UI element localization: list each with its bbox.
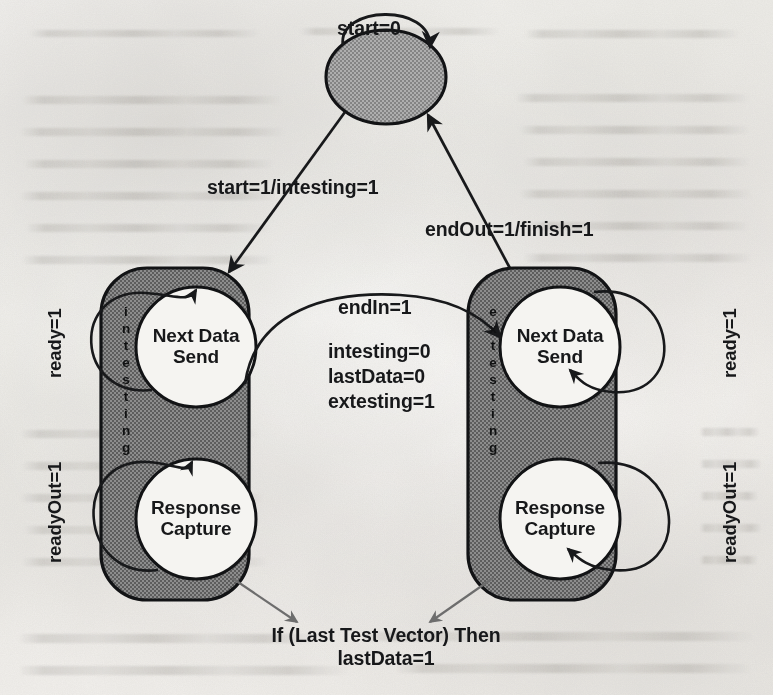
annotation-arrow-from-extesting [430, 578, 493, 622]
self-loop-label-extesting-ready: ready=1 [719, 308, 741, 378]
vletter: t [491, 388, 496, 405]
state-label-extesting-next-data-send: Next Data Send [505, 325, 615, 368]
transition-label-idle-self: start=0 [337, 17, 401, 40]
superstate-label-extesting: e x t e s t i n g [484, 303, 502, 456]
vletter: s [122, 371, 130, 388]
vletter: t [491, 337, 496, 354]
self-loop-label-intesting-ready: ready=1 [44, 308, 66, 378]
annotation-arrow-from-intesting [232, 578, 297, 622]
vletter: t [124, 388, 129, 405]
annotation-last-test-vector: If (Last Test Vector) Then lastData=1 [186, 624, 586, 670]
self-loop-label-intesting-readyout: readyOut=1 [44, 462, 66, 563]
state-label-line1: Response [515, 497, 605, 518]
vletter: x [489, 320, 497, 337]
transition-label-intesting-0: intesting=0 [328, 340, 430, 363]
annotation-line2: lastData=1 [337, 647, 434, 669]
vletter: t [124, 337, 129, 354]
state-label-line2: Send [537, 346, 583, 367]
superstate-label-intesting: i n t e s t i n g [117, 303, 135, 456]
vletter: g [122, 439, 130, 456]
vletter: i [124, 303, 128, 320]
vletter: g [489, 439, 497, 456]
scanned-page: start=0 start=1/intesting=1 endOut=1/fin… [0, 0, 773, 695]
self-loop-label-extesting-readyout: readyOut=1 [719, 462, 741, 563]
transition-label-endin: endIn=1 [338, 296, 412, 319]
transition-label-idle-to-intesting: start=1/intesting=1 [207, 176, 379, 199]
state-label-line1: Next Data [153, 325, 240, 346]
vletter: i [124, 405, 128, 422]
state-label-line1: Next Data [517, 325, 604, 346]
state-label-intesting-next-data-send: Next Data Send [141, 325, 251, 368]
vletter: e [122, 354, 130, 371]
vletter: s [489, 371, 497, 388]
transition-label-extesting-to-idle: endOut=1/finish=1 [425, 218, 593, 241]
vletter: n [122, 320, 130, 337]
state-label-line2: Capture [160, 518, 231, 539]
state-label-intesting-response-capture: Response Capture [141, 497, 251, 540]
state-label-line2: Send [173, 346, 219, 367]
vletter: n [122, 422, 130, 439]
state-label-line1: Response [151, 497, 241, 518]
vletter: i [491, 405, 495, 422]
annotation-line1: If (Last Test Vector) Then [272, 624, 501, 646]
state-label-line2: Capture [524, 518, 595, 539]
transition-label-lastdata-0: lastData=0 [328, 365, 425, 388]
vletter: e [489, 303, 497, 320]
transition-extesting-to-idle[interactable] [428, 115, 512, 272]
transition-label-extesting-1: extesting=1 [328, 390, 435, 413]
vletter: e [489, 354, 497, 371]
vletter: n [489, 422, 497, 439]
state-label-extesting-response-capture: Response Capture [505, 497, 615, 540]
